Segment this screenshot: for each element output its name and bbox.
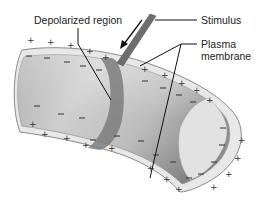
label-plasma-membrane: Plasma membrane xyxy=(201,38,251,62)
svg-text:+: + xyxy=(86,46,94,56)
svg-text:+: + xyxy=(102,52,110,62)
svg-text:+: + xyxy=(141,64,149,74)
svg-text:+: + xyxy=(41,129,49,139)
svg-text:+: + xyxy=(29,119,37,129)
label-plasma-line2: membrane xyxy=(201,50,251,62)
svg-text:+: + xyxy=(161,70,169,80)
svg-text:+: + xyxy=(238,135,246,145)
svg-text:+: + xyxy=(108,143,116,153)
svg-text:+: + xyxy=(175,184,183,194)
axon-diagram: + + + + + + + + + + + + + + + + + + + + … xyxy=(0,0,262,201)
label-stimulus: Stimulus xyxy=(201,14,241,26)
svg-text:+: + xyxy=(193,85,201,95)
svg-text:+: + xyxy=(210,182,218,192)
stimulus-electrode xyxy=(117,14,156,66)
svg-text:+: + xyxy=(47,37,55,47)
svg-text:+: + xyxy=(67,40,75,50)
svg-text:+: + xyxy=(27,35,35,45)
label-plasma-line1: Plasma xyxy=(201,38,251,50)
svg-text:+: + xyxy=(206,95,214,105)
svg-text:+: + xyxy=(178,78,186,88)
leader-plasma xyxy=(140,44,197,66)
label-depolarized-region: Depolarized region xyxy=(34,14,122,26)
svg-text:+: + xyxy=(63,133,71,143)
svg-text:+: + xyxy=(82,140,90,150)
svg-text:+: + xyxy=(163,174,171,184)
svg-text:+: + xyxy=(234,153,242,163)
svg-text:+: + xyxy=(225,169,233,179)
